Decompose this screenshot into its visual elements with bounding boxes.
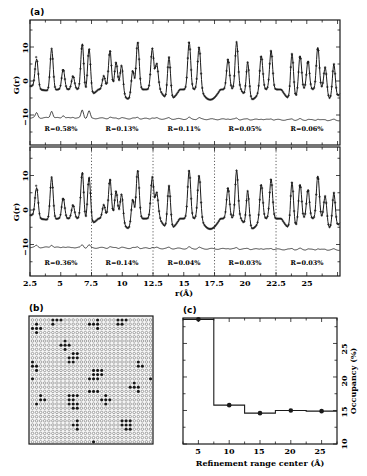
vacant-site <box>145 428 148 431</box>
vacant-site <box>48 331 51 334</box>
vacant-site <box>96 428 99 431</box>
vacant-site <box>48 420 51 423</box>
vacant-site <box>52 390 55 393</box>
vacant-site <box>84 344 87 347</box>
vacant-site <box>137 424 140 427</box>
vacant-site <box>48 348 51 351</box>
vacant-site <box>100 424 103 427</box>
vacant-site <box>39 373 42 376</box>
vacant-site <box>121 373 124 376</box>
vacant-site <box>80 424 83 427</box>
vacant-site <box>68 373 71 376</box>
vacant-site <box>39 319 42 322</box>
occupied-site <box>120 323 123 326</box>
vacant-site <box>117 436 120 439</box>
occupied-site <box>72 398 75 401</box>
vacant-site <box>88 348 91 351</box>
vacant-site <box>105 390 108 393</box>
vacant-site <box>64 394 67 397</box>
occupied-site <box>72 423 75 426</box>
vacant-site <box>43 403 46 406</box>
occupied-site <box>96 377 99 380</box>
ytick-label: −10 <box>20 238 30 256</box>
vacant-site <box>109 420 112 423</box>
vacant-site <box>64 323 67 326</box>
occupied-site <box>125 423 128 426</box>
vacant-site <box>64 390 67 393</box>
vacant-site <box>141 390 144 393</box>
occupied-site <box>35 331 38 334</box>
vacant-site <box>113 378 116 381</box>
ytick-label: 0 <box>20 207 30 213</box>
vacant-site <box>72 348 75 351</box>
vacant-site <box>145 415 148 418</box>
vacant-site <box>105 348 108 351</box>
vacant-site <box>149 369 152 372</box>
vacant-site <box>39 441 42 444</box>
r-label: R=0.36% <box>45 259 79 267</box>
vacant-site <box>121 441 124 444</box>
occupied-site <box>125 419 128 422</box>
vacant-site <box>56 428 59 431</box>
vacant-site <box>43 382 46 385</box>
vacant-site <box>96 386 99 389</box>
vacant-site <box>39 403 42 406</box>
xtick-label: 5 <box>57 278 63 288</box>
vacant-site <box>137 378 140 381</box>
vacant-site <box>113 340 116 343</box>
vacant-site <box>129 432 132 435</box>
vacant-site <box>35 394 38 397</box>
vacant-site <box>145 340 148 343</box>
occupied-site <box>76 423 79 426</box>
xtick-label: 7.5 <box>84 278 98 288</box>
ytick-label: 10 <box>20 170 30 182</box>
vacant-site <box>109 361 112 364</box>
vacant-site <box>113 411 116 414</box>
vacant-site <box>105 386 108 389</box>
vacant-site <box>149 394 152 397</box>
vacant-site <box>149 436 152 439</box>
vacant-site <box>48 365 51 368</box>
vacant-site <box>68 386 71 389</box>
vacant-site <box>113 336 116 339</box>
vacant-site <box>48 327 51 330</box>
vacant-site <box>84 424 87 427</box>
vacant-site <box>76 348 79 351</box>
vacant-site <box>121 394 124 397</box>
vacant-site <box>133 357 136 360</box>
vacant-site <box>60 386 63 389</box>
vacant-site <box>56 336 59 339</box>
vacant-site <box>72 373 75 376</box>
r-label: R=0.04% <box>168 259 202 267</box>
vacant-site <box>64 365 67 368</box>
vacant-site <box>35 340 38 343</box>
vacant-site <box>109 369 112 372</box>
vacant-site <box>68 352 71 355</box>
vacant-site <box>117 411 120 414</box>
vacant-site <box>43 424 46 427</box>
vacant-site <box>48 441 51 444</box>
vacant-site <box>129 436 132 439</box>
vacant-site <box>117 441 120 444</box>
vacant-site <box>109 386 112 389</box>
ytick-label: −10 <box>20 108 30 126</box>
vacant-site <box>80 340 83 343</box>
vacant-site <box>52 420 55 423</box>
vacant-site <box>39 432 42 435</box>
vacant-site <box>48 411 51 414</box>
occupied-site <box>68 344 71 347</box>
vacant-site <box>105 323 108 326</box>
vacant-site <box>145 390 148 393</box>
vacant-site <box>105 331 108 334</box>
vacant-site <box>145 336 148 339</box>
vacant-site <box>92 424 95 427</box>
vacant-site <box>76 361 79 364</box>
vacant-site <box>121 428 124 431</box>
vacant-site <box>56 352 59 355</box>
r-label: R=0.03% <box>229 259 263 267</box>
vacant-site <box>92 319 95 322</box>
vacant-site <box>96 399 99 402</box>
vacant-site <box>117 420 120 423</box>
vacant-site <box>60 403 63 406</box>
vacant-site <box>72 420 75 423</box>
